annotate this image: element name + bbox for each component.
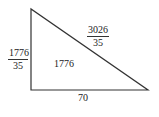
left-side-denominator: 35 bbox=[8, 60, 28, 71]
hypotenuse-numerator: 3026 bbox=[87, 25, 109, 37]
area-label: 1776 bbox=[53, 59, 75, 69]
hypotenuse-denominator: 35 bbox=[87, 37, 109, 48]
base-length-label: 70 bbox=[75, 93, 91, 103]
triangle-diagram: 1776 35 3026 35 1776 70 bbox=[0, 0, 159, 117]
left-side-numerator: 1776 bbox=[8, 48, 28, 60]
left-side-length-label: 1776 35 bbox=[8, 48, 28, 71]
hypotenuse-length-label: 3026 35 bbox=[87, 25, 109, 48]
